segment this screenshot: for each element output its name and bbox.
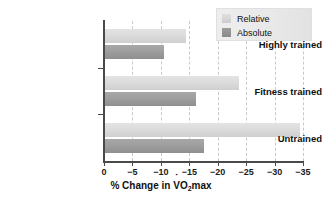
x-tick-label: 0 [101,167,106,177]
x-axis-title: % Change in VO2max [0,180,322,191]
legend: Relative Absolute [216,8,312,41]
bar-absolute-untrained [104,139,204,153]
x-tick-label: −25 [239,167,254,177]
x-axis-title-suffix: max [192,180,212,191]
legend-item-relative: Relative [222,12,307,25]
x-axis-title-prefix: % Change in [110,180,173,191]
x-tick-label: −35 [295,167,310,177]
y-tick [98,114,104,115]
bar-relative-highly-trained [104,29,186,43]
legend-item-absolute: Absolute [222,26,307,39]
x-tick [218,161,219,166]
legend-label-absolute: Absolute [237,28,272,38]
x-tick-label: −20 [210,167,225,177]
gridline [218,21,219,161]
x-tick-label: −30 [267,167,282,177]
v-dot-glyph: V [173,180,180,191]
x-tick [132,161,133,166]
category-label: Untrained [225,132,322,143]
x-tick [275,161,276,166]
legend-label-relative: Relative [237,14,270,24]
bar-relative-fitness-trained [104,76,239,90]
bar-absolute-fitness-trained [104,92,196,106]
x-tick [104,161,105,166]
x-tick [189,161,190,166]
category-label: Fitness trained [225,86,322,97]
chart-figure: 0−5−10−15−20−25−30−35 Highly trainedFitn… [0,0,322,200]
y-axis-line [103,20,105,162]
legend-swatch-absolute-icon [222,28,231,37]
x-tick-label: −10 [153,167,168,177]
x-axis-title-subscript: 2 [188,185,192,192]
x-tick [161,161,162,166]
x-tick [246,161,247,166]
x-tick-label: −15 [182,167,197,177]
y-tick [98,68,104,69]
x-tick-label: −5 [127,167,137,177]
x-tick [303,161,304,166]
x-axis-title-o: O [180,180,188,191]
legend-swatch-relative-icon [222,14,231,23]
bar-absolute-highly-trained [104,45,164,59]
